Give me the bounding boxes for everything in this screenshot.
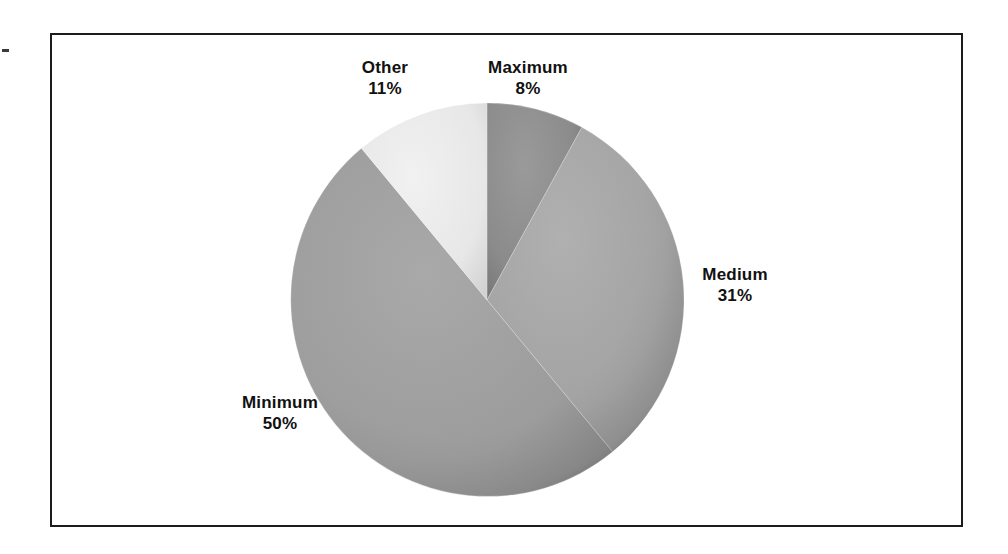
slice-label-name-medium: Medium xyxy=(660,265,810,286)
slice-label-value-other: 11% xyxy=(325,79,445,100)
pie-slice-label-other: Other 11% xyxy=(325,58,445,99)
pie-rim-shading xyxy=(290,103,684,497)
slice-label-value-medium: 31% xyxy=(660,286,810,307)
pie-slice-label-maximum: Maximum 8% xyxy=(458,58,598,99)
slice-label-value-minimum: 50% xyxy=(205,414,355,435)
slice-label-name-other: Other xyxy=(325,58,445,79)
slice-label-name-maximum: Maximum xyxy=(458,58,598,79)
slice-label-value-maximum: 8% xyxy=(458,79,598,100)
pie-slice-label-minimum: Minimum 50% xyxy=(205,393,355,434)
figure-canvas: Maximum 8% Other 11% Medium 31% Minimum … xyxy=(0,0,1008,554)
pie-chart: Maximum 8% Other 11% Medium 31% Minimum … xyxy=(0,0,1008,554)
slice-label-name-minimum: Minimum xyxy=(205,393,355,414)
pie-slice-label-medium: Medium 31% xyxy=(660,265,810,306)
